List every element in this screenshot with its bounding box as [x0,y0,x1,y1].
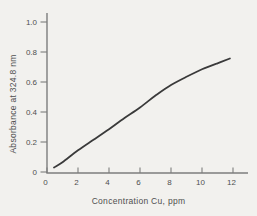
chart-canvas: 00.20.40.60.81.0024681012 [0,0,257,216]
y-axis-title: Absorbance at 324.8 nm [8,24,18,184]
calibration-chart: 00.20.40.60.81.0024681012 Absorbance at … [0,0,257,216]
x-axis-title: Concentration Cu, ppm [20,196,257,206]
x-tick-label: 6 [136,178,141,187]
x-tick-label: 0 [43,178,48,187]
y-tick-label: 0 [33,168,38,177]
x-tick-label: 2 [74,178,79,187]
calibration-curve-path [54,59,230,168]
y-tick-label: 0.6 [26,78,38,87]
y-tick-label: 1.0 [26,18,38,27]
x-tick-label: 12 [227,178,236,187]
y-tick-label: 0.8 [26,48,38,57]
x-tick-label: 8 [167,178,172,187]
y-tick-label: 0.2 [26,138,38,147]
x-tick-label: 10 [196,178,205,187]
y-tick-label: 0.4 [26,108,38,117]
x-tick-label: 4 [105,178,110,187]
